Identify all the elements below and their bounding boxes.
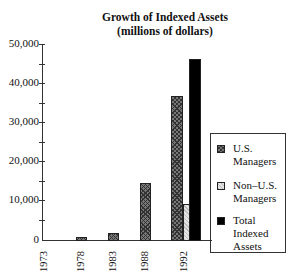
legend-swatch-total	[217, 217, 225, 225]
chart-subtitle: (millions of dollars)	[60, 24, 270, 38]
y-tick	[39, 44, 45, 45]
y-tick-label: 0	[0, 233, 39, 245]
legend-label: Managers	[233, 192, 276, 204]
chart-title: Growth of Indexed Assets (millions of do…	[60, 10, 270, 38]
x-tick-label: 1988	[139, 251, 150, 272]
legend-swatch-nonus	[217, 182, 225, 190]
bar-us-1988	[140, 183, 151, 241]
bar-us-1992	[171, 96, 183, 241]
y-tick	[39, 103, 45, 104]
y-tick-label: 10,000	[0, 193, 39, 205]
y-tick	[39, 181, 45, 182]
legend-label: Non–U.S.	[233, 179, 277, 191]
y-tick-label: 50,000	[0, 37, 39, 49]
legend-label: Total	[233, 214, 255, 226]
y-tick	[39, 142, 45, 143]
y-tick-label: 20,000	[0, 154, 39, 166]
y-tick	[39, 83, 45, 84]
y-tick	[39, 161, 45, 162]
x-tick-label: 1978	[75, 251, 86, 272]
y-tick-label: 30,000	[0, 115, 39, 127]
legend-label: Assets	[233, 240, 262, 252]
bar-us-1978	[76, 237, 87, 241]
legend-swatch-us	[217, 145, 225, 153]
y-tick	[39, 64, 45, 65]
x-tick-label: 1992	[178, 251, 189, 272]
y-tick	[39, 220, 45, 221]
legend-label: Managers	[233, 155, 276, 167]
y-tick	[39, 122, 45, 123]
legend: U.S.Managers Non–U.S.Managers TotalIndex…	[210, 133, 286, 253]
legend-item-us: U.S.Managers	[217, 142, 276, 168]
bar-total-1992	[189, 59, 201, 241]
x-tick-label: 1973	[38, 251, 49, 272]
y-tick-label: 40,000	[0, 76, 39, 88]
legend-item-nonus: Non–U.S.Managers	[217, 179, 277, 205]
bar-us-1983	[108, 233, 119, 241]
y-tick	[39, 200, 45, 201]
legend-label: Indexed	[233, 227, 268, 239]
legend-label: U.S.	[233, 142, 253, 154]
legend-item-total: TotalIndexedAssets	[217, 214, 268, 253]
x-tick-label: 1983	[107, 251, 118, 272]
chart-title-line1: Growth of Indexed Assets	[60, 10, 270, 24]
